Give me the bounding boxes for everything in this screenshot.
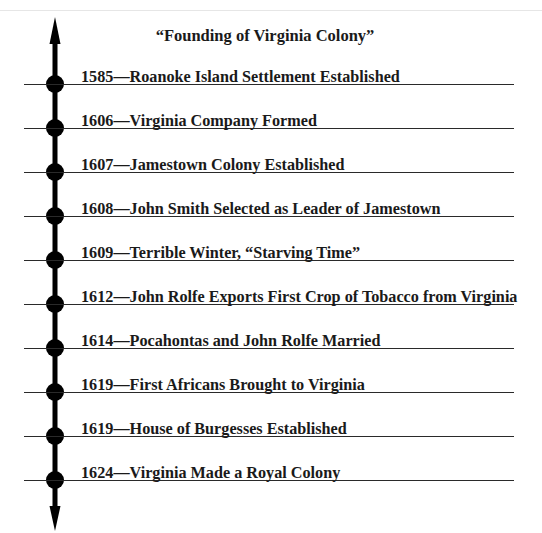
event-label: 1608—John Smith Selected as Leader of Ja… bbox=[81, 200, 440, 218]
event-label: 1585—Roanoke Island Settlement Establish… bbox=[81, 68, 400, 86]
event-label: 1624—Virginia Made a Royal Colony bbox=[81, 464, 340, 482]
event-label: 1607—Jamestown Colony Established bbox=[81, 156, 345, 174]
event-label: 1614—Pocahontas and John Rolfe Married bbox=[81, 332, 380, 350]
event-label: 1619—House of Burgesses Established bbox=[81, 420, 347, 438]
arrow-up-icon bbox=[50, 17, 61, 44]
event-label: 1612—John Rolfe Exports First Crop of To… bbox=[81, 288, 517, 306]
arrow-down-icon bbox=[50, 506, 61, 531]
event-label: 1619—First Africans Brought to Virginia bbox=[81, 376, 365, 394]
event-label: 1609—Terrible Winter, “Starving Time” bbox=[81, 244, 360, 262]
event-label: 1606—Virginia Company Formed bbox=[81, 112, 317, 130]
timeline-diagram: “Founding of Virginia Colony” 1585—Roano… bbox=[0, 0, 542, 533]
